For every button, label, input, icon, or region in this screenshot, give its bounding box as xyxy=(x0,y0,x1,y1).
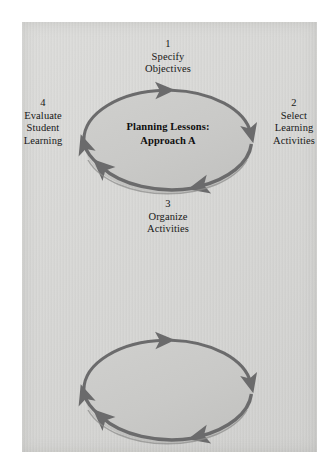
diagram-a-step-4-line1: Evaluate xyxy=(6,110,80,122)
diagram-a-step-3-line2: Activities xyxy=(118,223,218,235)
diagram-a-step-4-number: 4 xyxy=(6,97,80,109)
diagram-a-step-1-label: 1 Specify Objectives xyxy=(118,38,218,76)
diagram-a-step-1-number: 1 xyxy=(118,38,218,50)
diagram-a-step-1-line1: Specify xyxy=(118,51,218,63)
diagram-a-step-4-line2: Student xyxy=(6,122,80,134)
diagram-a-step-3-number: 3 xyxy=(118,198,218,210)
diagram-a-step-2-line2: Learning xyxy=(258,122,330,134)
diagram-a-step-3-line1: Organize xyxy=(118,211,218,223)
cycle-diagram-approach-b: Planning Lessons: Approach B 1 Determine… xyxy=(0,240,335,468)
diagram-a-step-2-label: 2 Select Learning Activities xyxy=(258,97,330,147)
diagram-a-step-2-number: 2 xyxy=(258,97,330,109)
diagram-a-center-line2: Approach A xyxy=(92,134,244,148)
diagram-a-step-4-line3: Learning xyxy=(6,135,80,147)
diagram-a-step-2-line1: Select xyxy=(258,110,330,122)
diagram-a-step-2-line3: Activities xyxy=(258,135,330,147)
diagram-a-step-4-label: 4 Evaluate Student Learning xyxy=(6,97,80,147)
diagram-a-center-label: Planning Lessons: Approach A xyxy=(92,120,244,148)
cycle-ring-graphic-b xyxy=(0,240,335,468)
diagram-a-step-3-label: 3 Organize Activities xyxy=(118,198,218,236)
diagram-a-step-1-line2: Objectives xyxy=(118,63,218,75)
diagram-a-center-line1: Planning Lessons: xyxy=(92,120,244,134)
cycle-diagram-approach-a: Planning Lessons: Approach A 1 Specify O… xyxy=(0,0,335,240)
